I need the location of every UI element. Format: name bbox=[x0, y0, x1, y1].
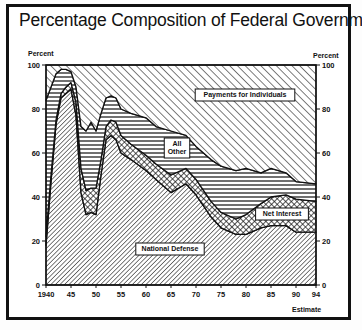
x-tick: 94 bbox=[312, 290, 321, 299]
y-tick-right: 100 bbox=[322, 61, 335, 70]
y-tick-right: 40 bbox=[322, 193, 330, 202]
y-tick-left: 40 bbox=[32, 193, 40, 202]
label-net-interest: Net Interest bbox=[256, 208, 309, 220]
y-tick-left: 100 bbox=[27, 61, 40, 70]
label-national-defense: National Defense bbox=[136, 243, 204, 255]
x-tick: 90 bbox=[292, 290, 300, 299]
label-all-other: AllOther bbox=[164, 138, 190, 158]
svg-text:Net Interest: Net Interest bbox=[263, 210, 302, 217]
y-tick-left: 80 bbox=[32, 105, 40, 114]
y-tick-left: 60 bbox=[32, 149, 40, 158]
x-tick: 55 bbox=[117, 290, 125, 299]
x-tick: 45 bbox=[67, 290, 75, 299]
stacked-area-chart: 0020204040606080801001001940455055606570… bbox=[0, 0, 362, 330]
x-tick: 75 bbox=[217, 290, 225, 299]
svg-text:Payments for Individuals: Payments for Individuals bbox=[204, 91, 287, 99]
y-tick-left: 0 bbox=[36, 281, 40, 290]
x-tick: 80 bbox=[242, 290, 250, 299]
svg-text:Other: Other bbox=[168, 148, 187, 155]
x-tick: 50 bbox=[92, 290, 100, 299]
y-tick-right: 60 bbox=[322, 149, 330, 158]
x-tick: 70 bbox=[192, 290, 200, 299]
x-tick: 65 bbox=[167, 290, 175, 299]
y-tick-right: 0 bbox=[322, 281, 326, 290]
x-tick: 85 bbox=[267, 290, 275, 299]
y-tick-right: 20 bbox=[322, 237, 330, 246]
svg-text:All: All bbox=[173, 140, 182, 147]
label-payments-for-individuals: Payments for Individuals bbox=[195, 89, 295, 101]
y-tick-left: 20 bbox=[32, 237, 40, 246]
x-tick: 60 bbox=[142, 290, 150, 299]
x-tick: 1940 bbox=[38, 290, 55, 299]
y-tick-right: 80 bbox=[322, 105, 330, 114]
svg-text:National Defense: National Defense bbox=[142, 245, 199, 252]
